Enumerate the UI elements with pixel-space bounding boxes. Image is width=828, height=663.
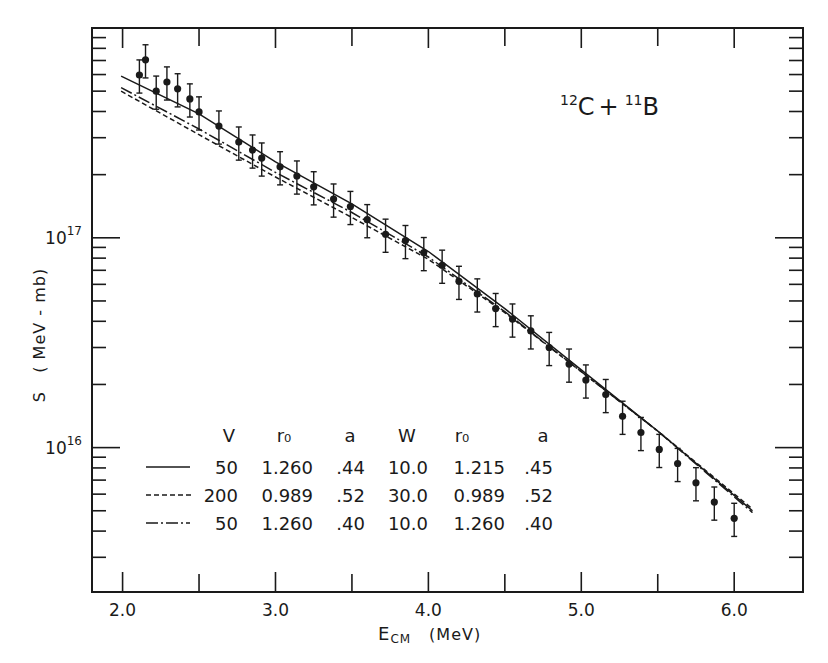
data-marker [420, 249, 427, 256]
data-point [195, 97, 202, 130]
data-point [582, 365, 589, 398]
data-marker [153, 88, 160, 95]
chart: 2.03.04.05.06.0 10171016 S ( MeV - mb) E… [0, 0, 828, 663]
data-marker [731, 515, 738, 522]
legend-header-a: a [344, 425, 355, 446]
legend-header-v: V [223, 425, 236, 446]
y-tick-label: 1016 [45, 434, 82, 458]
data-marker [258, 154, 265, 161]
data-marker [382, 231, 389, 238]
data-point [402, 225, 409, 258]
curve-solid [121, 76, 752, 511]
data-marker [474, 290, 481, 297]
legend-cell: 50 [215, 513, 238, 534]
y-axis-label: S ( MeV - mb) [30, 268, 49, 402]
x-tick-labels: 2.03.04.05.06.0 [109, 600, 748, 620]
data-point [330, 184, 337, 217]
data-point [364, 205, 371, 238]
data-marker [174, 85, 181, 92]
legend-cell: .40 [524, 513, 553, 534]
data-marker [509, 315, 516, 322]
x-axis-label-unit: (MeV) [429, 625, 481, 644]
data-marker [364, 216, 371, 223]
data-marker [546, 344, 553, 351]
data-marker [674, 460, 681, 467]
legend-header-w: W [398, 425, 416, 446]
data-marker [310, 183, 317, 190]
data-point [186, 84, 193, 117]
x-tick-label: 6.0 [721, 600, 748, 620]
y-tick-label-exponent: 17 [67, 224, 82, 238]
legend-cell: 200 [204, 485, 238, 506]
legend-cell: 0.989 [453, 485, 505, 506]
data-marker [619, 413, 626, 420]
data-point [439, 250, 446, 283]
annotation-elem2: B [643, 93, 659, 121]
data-point [711, 487, 718, 520]
data-marker [347, 203, 354, 210]
x-axis-label-sub: CM [390, 632, 411, 646]
data-point [731, 503, 738, 536]
data-marker [276, 163, 283, 170]
y-tick-label: 1017 [45, 224, 82, 248]
data-point [310, 172, 317, 205]
legend-cell: 10.0 [388, 457, 428, 478]
data-marker [235, 138, 242, 145]
legend-cell: .44 [336, 457, 365, 478]
x-axis-label: ECM(MeV) [378, 623, 481, 646]
legend-row-dashdot: 50 1.260 .40 10.0 1.260 .40 [215, 513, 553, 534]
data-marker [527, 327, 534, 334]
legend-cell: 10.0 [388, 513, 428, 534]
annotation-plus: + [599, 93, 619, 121]
y-tick-labels: 10171016 [45, 224, 82, 458]
data-point [509, 304, 516, 337]
data-marker [142, 56, 149, 63]
data-point [347, 191, 354, 224]
data-marker [492, 305, 499, 312]
data-point [527, 316, 534, 349]
x-tick-label: 4.0 [415, 600, 442, 620]
data-point [565, 349, 572, 382]
data-point [163, 67, 170, 100]
data-point [455, 266, 462, 299]
data-point [692, 468, 699, 501]
legend-cell: .45 [524, 457, 553, 478]
legend-cell: 1.260 [261, 457, 313, 478]
data-point [474, 279, 481, 312]
data-marker [330, 195, 337, 202]
data-marker [163, 78, 170, 85]
x-axis-label-main: E [378, 623, 390, 644]
legend: V r₀ a W r₀ a 50 1.260 .44 10.0 1.215 .4… [146, 425, 553, 534]
data-marker [692, 479, 699, 486]
data-point [136, 60, 143, 93]
data-marker [455, 278, 462, 285]
data-marker [602, 391, 609, 398]
legend-header-r0: r₀ [277, 425, 292, 446]
data-point [546, 332, 553, 365]
legend-cell: .52 [524, 485, 553, 506]
data-marker [439, 262, 446, 269]
data-point [656, 434, 663, 467]
data-point [420, 238, 427, 271]
data-point [276, 152, 283, 185]
x-tick-label: 5.0 [568, 600, 595, 620]
data-point [637, 417, 644, 450]
data-point [142, 45, 149, 78]
data-marker [637, 429, 644, 436]
legend-cell: 1.260 [453, 513, 505, 534]
data-marker [215, 122, 222, 129]
legend-cell: 30.0 [388, 485, 428, 506]
legend-cell: 1.260 [261, 513, 313, 534]
data-marker [195, 108, 202, 115]
data-marker [136, 71, 143, 78]
data-point [492, 293, 499, 326]
y-tick-label-exponent: 16 [67, 434, 82, 448]
reaction-annotation: 12C+11B [560, 92, 659, 121]
annotation-elem1: C [578, 93, 595, 121]
data-marker [249, 146, 256, 153]
data-marker [402, 237, 409, 244]
legend-row-solid: 50 1.260 .44 10.0 1.215 .45 [215, 457, 553, 478]
legend-cell: .40 [336, 513, 365, 534]
legend-cell: .52 [336, 485, 365, 506]
legend-header-r0-imag: r₀ [455, 425, 470, 446]
